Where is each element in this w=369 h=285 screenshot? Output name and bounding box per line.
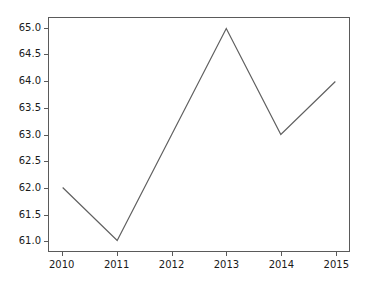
x-tick-label: 2015 xyxy=(324,260,349,270)
y-tick-mark xyxy=(44,241,48,242)
x-tick-label: 2011 xyxy=(104,260,129,270)
x-tick-label: 2012 xyxy=(159,260,184,270)
x-tick-label: 2014 xyxy=(269,260,294,270)
y-tick-mark xyxy=(44,108,48,109)
plot-axes-area xyxy=(48,17,350,252)
x-tick-mark xyxy=(172,252,173,256)
y-tick-label: 62.5 xyxy=(19,156,41,166)
y-tick-label: 65.0 xyxy=(19,23,41,33)
x-tick-mark xyxy=(62,252,63,256)
y-tick-mark xyxy=(44,215,48,216)
y-tick-label: 61.5 xyxy=(19,210,41,220)
y-tick-mark xyxy=(44,28,48,29)
x-tick-mark xyxy=(281,252,282,256)
y-tick-mark xyxy=(44,135,48,136)
y-tick-mark xyxy=(44,188,48,189)
y-tick-label: 64.0 xyxy=(19,76,41,86)
y-tick-label: 61.0 xyxy=(19,236,41,246)
y-tick-label: 63.5 xyxy=(19,103,41,113)
x-tick-mark xyxy=(117,252,118,256)
y-tick-label: 62.0 xyxy=(19,183,41,193)
x-tick-label: 2013 xyxy=(214,260,239,270)
y-tick-label: 64.5 xyxy=(19,49,41,59)
y-tick-mark xyxy=(44,81,48,82)
figure-canvas: 61.061.562.062.563.063.564.064.565.0 201… xyxy=(0,0,369,285)
y-tick-label: 63.0 xyxy=(19,130,41,140)
x-tick-label: 2010 xyxy=(49,260,74,270)
data-line-series-0 xyxy=(63,29,336,241)
y-tick-mark xyxy=(44,161,48,162)
x-tick-mark xyxy=(226,252,227,256)
line-series-svg xyxy=(49,18,349,251)
x-tick-mark xyxy=(336,252,337,256)
y-tick-mark xyxy=(44,54,48,55)
